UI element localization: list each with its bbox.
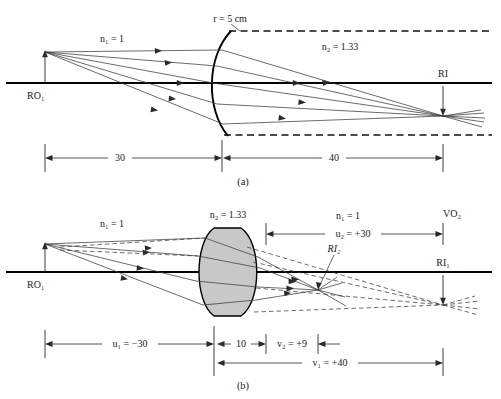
label-n2-a: n₂ = 1.33 [322, 41, 359, 52]
label-real-image-1-b: RI₁ [436, 257, 450, 268]
caption-panel-a: (a) [237, 176, 249, 188]
optics-figure: n₁ = 1 n₂ = 1.33 r = 5 cm RO₁ RI 30 40 (… [0, 0, 501, 399]
label-n1-a: n₁ = 1 [100, 33, 124, 44]
label-virtual-object-b: VO₂ [443, 208, 461, 219]
dim-label-v2-b: v₂ = +9 [277, 338, 307, 349]
label-object-a: RO₁ [27, 90, 44, 101]
label-real-image-2-b: RI₂ [327, 243, 341, 254]
label-radius-a: r = 5 cm [213, 13, 247, 24]
dim-label-u2-b: u₂ = +30 [336, 228, 371, 239]
label-object-b: RO₁ [27, 279, 44, 290]
dim-label-40-a: 40 [329, 152, 339, 163]
dim-label-v1-b: v₁ = +40 [313, 357, 348, 368]
label-image-a: RI [438, 68, 448, 79]
dim-label-30-a: 30 [115, 152, 125, 163]
dim-label-u1-b: u₁ = −30 [113, 338, 148, 349]
label-n1-right-b: n₁ = 1 [336, 210, 360, 221]
label-n1-left-b: n₁ = 1 [100, 218, 124, 229]
caption-panel-b: (b) [237, 380, 250, 392]
dim-label-thickness-b: 10 [236, 338, 246, 349]
label-n2-lens-b: n₂ = 1.33 [210, 209, 247, 220]
